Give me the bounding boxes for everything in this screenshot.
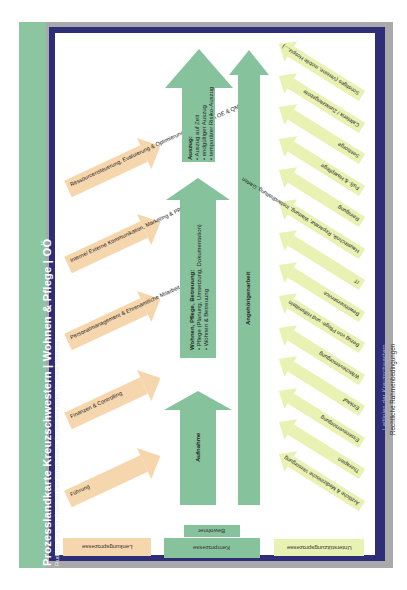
- core-processes-label-box: Kernprozesse: [164, 538, 260, 558]
- core-step-wohnen-pflege: Wohnen, Pflege, Betreuung: • Pflege (Pla…: [189, 224, 210, 350]
- arrow-head-icon: [229, 50, 269, 75]
- arrow-head-icon: [164, 391, 232, 410]
- relatives-label: Angehörigenarbeit: [245, 272, 252, 325]
- arrow-head-icon: [166, 178, 230, 200]
- management-processes-label-box: Lenkungsprozesse: [63, 538, 151, 556]
- guidelines-label: Leitlinien der Kreuzschwestern: [381, 344, 388, 430]
- core-step-aufnahme: Aufnahme: [195, 433, 202, 462]
- title-block: Prozesslandkarte Kreuzschwestern | Wohne…: [41, 26, 65, 566]
- core-step-auszug: Auszug: • Auszug auf Zeit • endgültiger …: [187, 87, 215, 160]
- page-title: Prozesslandkarte Kreuzschwestern | Wohne…: [41, 26, 53, 566]
- arrow-head-icon: [165, 49, 233, 88]
- page-subtitle: Rudigier Linz, St. Raphael Bad Schallerb…: [53, 26, 61, 566]
- legal-framework-label: Rechtliche Rahmenbedingungen: [389, 344, 396, 435]
- support-processes-label-box: Unterstützungsprozesse: [274, 539, 364, 556]
- resident-label-box: Bewohner: [184, 525, 240, 537]
- legal-framework-strip: [385, 27, 391, 561]
